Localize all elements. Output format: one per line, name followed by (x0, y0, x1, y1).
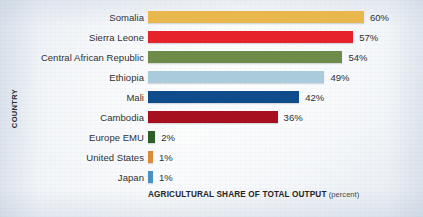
bar-europe-emu (148, 131, 155, 143)
bar-track: 36% (148, 111, 423, 123)
bar-value-label: 57% (359, 32, 378, 43)
bar-category-label: Japan (0, 172, 144, 183)
bar-value-label: 36% (284, 112, 303, 123)
bar-value-label: 42% (305, 92, 324, 103)
bar-value-label: 54% (348, 52, 367, 63)
bar-category-label: Europe EMU (0, 132, 144, 143)
bar-track: 1% (148, 171, 423, 183)
bar-track: 1% (148, 151, 423, 163)
bar-value-label: 1% (159, 152, 173, 163)
bar-value-label: 2% (161, 132, 175, 143)
bar-united-states (148, 151, 153, 163)
bar-value-label: 49% (330, 72, 349, 83)
bar-chart: COUNTRY Somalia60%Sierra Leone57%Central… (0, 0, 423, 217)
bar-japan (148, 171, 153, 183)
bar-category-label: Somalia (0, 12, 144, 23)
bar-value-label: 1% (159, 172, 173, 183)
bar-row: Europe EMU2% (0, 127, 423, 147)
bar-category-label: United States (0, 152, 144, 163)
bar-category-label: Sierra Leone (0, 32, 144, 43)
bar-row: Ethiopia49% (0, 67, 423, 87)
bar-category-label: Mali (0, 92, 144, 103)
bar-row: Central African Republic54% (0, 47, 423, 67)
bar-somalia (148, 11, 364, 23)
bar-row: Cambodia36% (0, 107, 423, 127)
bar-track: 42% (148, 91, 423, 103)
bar-value-label: 60% (370, 12, 389, 23)
bar-row: Mali42% (0, 87, 423, 107)
bar-mali (148, 91, 299, 103)
bar-track: 57% (148, 31, 423, 43)
bar-row: Sierra Leone57% (0, 27, 423, 47)
x-axis-unit-label: (percent) (329, 190, 359, 199)
bar-category-label: Central African Republic (0, 52, 144, 63)
bar-rows-container: Somalia60%Sierra Leone57%Central African… (0, 7, 423, 187)
bar-sierra-leone (148, 31, 353, 43)
bar-track: 2% (148, 131, 423, 143)
bar-row: United States1% (0, 147, 423, 167)
bar-category-label: Ethiopia (0, 72, 144, 83)
bar-track: 60% (148, 11, 423, 23)
x-axis-title-label: AGRICULTURAL SHARE OF TOTAL OUTPUT (148, 190, 327, 199)
bar-row: Somalia60% (0, 7, 423, 27)
bar-track: 49% (148, 71, 423, 83)
bar-ethiopia (148, 71, 324, 83)
bar-central-african-republic (148, 51, 342, 63)
bar-track: 54% (148, 51, 423, 63)
bar-category-label: Cambodia (0, 112, 144, 123)
bar-cambodia (148, 111, 278, 123)
x-axis-title: AGRICULTURAL SHARE OF TOTAL OUTPUT (perc… (148, 190, 359, 199)
bar-row: Japan1% (0, 167, 423, 187)
